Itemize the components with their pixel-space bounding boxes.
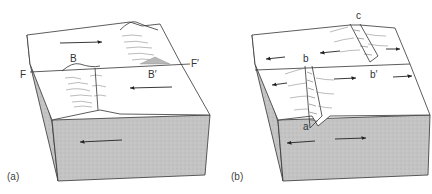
panel-b-label-a: a (303, 121, 309, 132)
panel-a-front-face (52, 115, 210, 181)
panel-b-caption: (b) (231, 171, 243, 182)
panel-a-caption: (a) (7, 171, 19, 182)
panel-b-label-b: b (303, 53, 309, 64)
panel-b-label-c: c (356, 10, 361, 21)
panel-a-label-f: F (20, 69, 26, 80)
panel-a-block: B B′ F F′ (a) (7, 22, 210, 182)
panel-a-label-b: B (70, 53, 77, 64)
panel-a-label-f-prime: F′ (191, 58, 199, 69)
panel-b-label-b-prime: b′ (370, 69, 378, 80)
figure-canvas: B B′ F F′ (a) (0, 0, 432, 194)
panel-b-block: a b b′ c (b) (231, 10, 430, 182)
panel-b-front-face (278, 115, 430, 181)
panel-a-label-b-prime: B′ (148, 69, 157, 80)
